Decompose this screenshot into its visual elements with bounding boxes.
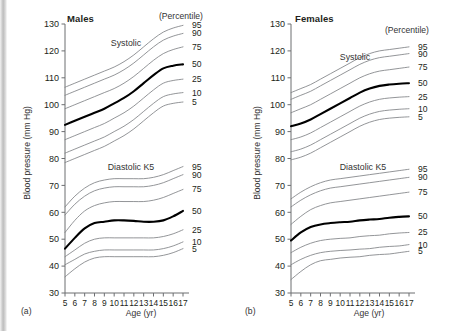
page-gutter-shadow	[0, 0, 7, 331]
svg-text:70: 70	[49, 181, 59, 191]
svg-text:11: 11	[346, 298, 355, 308]
svg-text:50: 50	[275, 234, 285, 244]
figure-page: Males Blood pressure (mm Hg) Age (yr) (a…	[0, 0, 476, 331]
svg-text:12: 12	[129, 298, 139, 308]
svg-text:6: 6	[298, 298, 303, 308]
svg-text:50: 50	[192, 206, 202, 216]
svg-text:50: 50	[49, 234, 59, 244]
svg-text:100: 100	[270, 100, 285, 110]
svg-text:(Percentile): (Percentile)	[159, 11, 203, 21]
svg-text:60: 60	[275, 208, 285, 218]
svg-text:9: 9	[328, 298, 333, 308]
svg-text:14: 14	[375, 298, 385, 308]
svg-text:5: 5	[418, 246, 423, 256]
svg-text:90: 90	[418, 172, 428, 182]
plot-area-females: 3040506070809010011012013056789101112131…	[235, 0, 467, 331]
svg-text:40: 40	[275, 261, 285, 271]
svg-text:90: 90	[192, 28, 202, 38]
svg-text:90: 90	[418, 49, 428, 59]
svg-text:75: 75	[418, 187, 428, 197]
svg-text:9: 9	[102, 298, 107, 308]
svg-text:Systolic: Systolic	[340, 52, 371, 62]
svg-text:60: 60	[49, 208, 59, 218]
svg-text:8: 8	[318, 298, 323, 308]
svg-text:Diastolic K5: Diastolic K5	[340, 162, 387, 172]
svg-text:14: 14	[149, 298, 159, 308]
svg-text:7: 7	[308, 298, 313, 308]
svg-text:80: 80	[49, 154, 59, 164]
svg-text:130: 130	[270, 19, 285, 29]
svg-text:50: 50	[418, 78, 428, 88]
svg-text:75: 75	[192, 184, 202, 194]
chart-panel-females: Females Blood pressure (mm Hg) Age (yr) …	[235, 0, 467, 331]
svg-text:16: 16	[395, 298, 405, 308]
svg-text:8: 8	[92, 298, 97, 308]
svg-text:10: 10	[110, 298, 120, 308]
svg-text:7: 7	[82, 298, 87, 308]
svg-text:90: 90	[49, 127, 59, 137]
svg-text:25: 25	[418, 227, 428, 237]
blood-pressure-percentile-figure: Males Blood pressure (mm Hg) Age (yr) (a…	[7, 0, 476, 331]
svg-text:5: 5	[289, 298, 294, 308]
svg-text:75: 75	[418, 62, 428, 72]
svg-text:90: 90	[192, 170, 202, 180]
svg-text:25: 25	[192, 225, 202, 235]
svg-text:30: 30	[275, 288, 285, 298]
svg-text:11: 11	[120, 298, 129, 308]
svg-text:13: 13	[139, 298, 149, 308]
svg-text:75: 75	[192, 42, 202, 52]
svg-text:16: 16	[169, 298, 179, 308]
svg-text:100: 100	[44, 100, 59, 110]
svg-text:70: 70	[275, 181, 285, 191]
plot-area-males: 3040506070809010011012013056789101112131…	[9, 0, 241, 331]
svg-text:5: 5	[192, 97, 197, 107]
svg-text:120: 120	[270, 46, 285, 56]
svg-text:5: 5	[63, 298, 68, 308]
svg-text:17: 17	[404, 298, 414, 308]
svg-text:15: 15	[159, 298, 169, 308]
svg-text:Diastolic K5: Diastolic K5	[108, 162, 155, 172]
svg-text:90: 90	[275, 127, 285, 137]
svg-text:15: 15	[385, 298, 395, 308]
svg-text:10: 10	[336, 298, 346, 308]
svg-text:6: 6	[72, 298, 77, 308]
svg-text:40: 40	[49, 261, 59, 271]
svg-text:13: 13	[365, 298, 375, 308]
svg-text:50: 50	[192, 59, 202, 69]
svg-text:12: 12	[355, 298, 365, 308]
svg-text:110: 110	[271, 73, 285, 83]
svg-text:25: 25	[418, 92, 428, 102]
svg-text:(Percentile): (Percentile)	[385, 25, 429, 35]
svg-text:120: 120	[44, 46, 59, 56]
svg-text:50: 50	[418, 211, 428, 221]
svg-text:110: 110	[45, 73, 59, 83]
svg-text:30: 30	[49, 288, 59, 298]
svg-text:5: 5	[192, 244, 197, 254]
svg-text:130: 130	[44, 19, 59, 29]
chart-panel-males: Males Blood pressure (mm Hg) Age (yr) (a…	[9, 0, 241, 331]
svg-text:5: 5	[418, 112, 423, 122]
svg-text:25: 25	[192, 74, 202, 84]
svg-text:17: 17	[178, 298, 188, 308]
svg-text:Systolic: Systolic	[111, 38, 142, 48]
svg-text:80: 80	[275, 154, 285, 164]
